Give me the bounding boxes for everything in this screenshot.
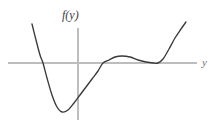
horizontal-axis-label: y	[202, 57, 207, 68]
function-curve	[32, 22, 186, 112]
function-axis-label: f(y)	[62, 9, 79, 21]
function-graph-figure: f(y) y	[0, 0, 216, 127]
plot-canvas	[0, 0, 216, 127]
